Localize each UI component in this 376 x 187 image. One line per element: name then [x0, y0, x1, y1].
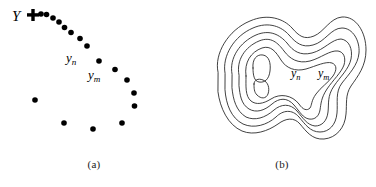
- contour-level-6: [253, 55, 270, 82]
- plus-marker-icon: [27, 9, 39, 21]
- scatter-point: [96, 58, 102, 64]
- scatter-point: [68, 30, 74, 36]
- scatter-point: [119, 120, 125, 126]
- panel-a-scatter: Y: [0, 0, 188, 187]
- label-y-m: ym: [317, 66, 329, 82]
- panel-b-contour: yn ym (b): [188, 0, 376, 187]
- scatter-point: [90, 126, 96, 132]
- caption-panel-b: (b): [188, 158, 376, 170]
- scatter-points-group: [32, 11, 137, 132]
- caption-panel-a: (a): [0, 158, 188, 170]
- scatter-point: [44, 12, 50, 18]
- label-y-m: ym: [86, 67, 101, 84]
- scatter-point: [32, 97, 38, 103]
- label-y-n-subscript: n: [296, 73, 300, 82]
- label-y-n: yn: [64, 50, 77, 67]
- scatter-point: [61, 120, 67, 126]
- scatter-point: [124, 77, 130, 83]
- scatter-point: [112, 67, 118, 73]
- label-y-m-subscript: m: [94, 74, 101, 84]
- label-y-m-subscript: m: [323, 73, 329, 82]
- scatter-point: [77, 36, 83, 42]
- origin-label: Y: [12, 8, 22, 24]
- scatter-point: [131, 90, 137, 96]
- scatter-point: [50, 15, 56, 21]
- scatter-point: [132, 103, 138, 109]
- figure-container: Y: [0, 0, 376, 187]
- scatter-point: [62, 25, 68, 31]
- scatter-point: [84, 43, 90, 49]
- label-y-n-subscript: n: [72, 57, 77, 67]
- scatter-point: [38, 11, 44, 17]
- scatter-point: [56, 19, 62, 25]
- label-y-n: yn: [290, 66, 301, 82]
